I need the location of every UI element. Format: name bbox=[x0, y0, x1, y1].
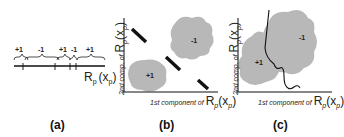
brace-icon bbox=[70, 55, 77, 60]
brace-icon bbox=[25, 54, 59, 60]
panel-a-graphic bbox=[0, 0, 114, 137]
axis-label: Rp (xp) bbox=[84, 70, 116, 85]
x-axis-label: 1st component of Rp(xp) bbox=[258, 94, 344, 109]
panel-b-graphic bbox=[114, 0, 228, 137]
panel-caption: (a) bbox=[50, 118, 65, 132]
panel-caption: (c) bbox=[273, 118, 288, 132]
boundary-segment bbox=[198, 80, 208, 89]
segment-label: +1 bbox=[15, 46, 23, 53]
y-axis-label: 2nd comp. of Rp(xp) bbox=[113, 22, 128, 95]
boundary-segment bbox=[166, 57, 180, 70]
segment-label: -1 bbox=[71, 46, 77, 53]
region-label-negative: -1 bbox=[299, 34, 305, 41]
segment-label: -1 bbox=[38, 46, 44, 53]
panel-c: +1 -1 2nd comp. of Rp(xp) 1st component … bbox=[228, 0, 342, 137]
segment-label: +1 bbox=[86, 46, 94, 53]
panel-c-graphic bbox=[228, 0, 342, 137]
y-axis-label: 2nd comp. of Rp(xp) bbox=[227, 22, 242, 95]
region-label-positive: +1 bbox=[146, 72, 154, 79]
panel-b: +1 -1 2nd comp. of Rp(xp) 1st component … bbox=[114, 0, 228, 137]
boundary-segment bbox=[132, 29, 146, 42]
brace-icon bbox=[77, 54, 105, 60]
brace-icon bbox=[14, 54, 28, 60]
segment-label: +1 bbox=[59, 46, 67, 53]
panel-a: +1 -1 +1 -1 +1 Rp (xp) (a) bbox=[0, 0, 114, 137]
region-label-negative: -1 bbox=[191, 37, 197, 44]
region-label-positive: +1 bbox=[255, 59, 263, 66]
x-axis-label: 1st component of Rp(xp) bbox=[150, 94, 236, 109]
panel-caption: (b) bbox=[159, 118, 174, 132]
